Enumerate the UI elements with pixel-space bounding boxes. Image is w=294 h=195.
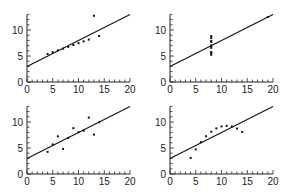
scatter-panel-4: 051015200510 — [155, 106, 279, 187]
data-point — [62, 48, 64, 50]
x-tick-label: 0 — [24, 176, 30, 187]
data-point — [47, 151, 49, 153]
data-point — [210, 37, 212, 39]
x-tick-label: 10 — [216, 176, 228, 187]
scatter-panel-3: 051015200510 — [12, 106, 136, 187]
data-point — [72, 127, 74, 129]
regression-line — [170, 14, 273, 66]
data-point — [267, 16, 269, 18]
data-point — [200, 141, 202, 143]
y-tick-label: 0 — [17, 77, 23, 88]
x-tick-label: 0 — [24, 84, 30, 95]
data-point — [195, 148, 197, 150]
y-tick-label: 10 — [12, 25, 24, 36]
y-tick-label: 0 — [17, 169, 23, 180]
x-tick-label: 15 — [242, 84, 254, 95]
y-tick-label: 5 — [17, 51, 23, 62]
data-point — [241, 131, 243, 133]
scatter-panel-1: 051015200510 — [12, 14, 136, 95]
y-tick-label: 0 — [160, 169, 166, 180]
y-tick-label: 10 — [155, 117, 167, 128]
x-tick-label: 10 — [73, 176, 85, 187]
data-point — [98, 121, 100, 123]
x-tick-label: 15 — [99, 84, 111, 95]
y-tick-label: 5 — [160, 143, 166, 154]
x-tick-label: 15 — [242, 176, 254, 187]
data-point — [83, 130, 85, 132]
data-point — [210, 35, 212, 37]
regression-line — [27, 14, 130, 66]
data-point — [57, 49, 59, 51]
x-tick-label: 10 — [216, 84, 228, 95]
data-point — [78, 42, 80, 44]
x-tick-label: 5 — [193, 84, 199, 95]
data-point — [52, 51, 54, 53]
data-point — [88, 117, 90, 119]
data-point — [67, 137, 69, 139]
data-point — [236, 128, 238, 130]
data-point — [210, 52, 212, 54]
x-tick-label: 15 — [99, 176, 111, 187]
x-tick-label: 5 — [50, 84, 56, 95]
data-point — [215, 127, 217, 129]
data-point — [57, 135, 59, 137]
data-point — [62, 148, 64, 150]
x-tick-label: 20 — [124, 84, 136, 95]
data-point — [190, 157, 192, 159]
data-point — [52, 143, 54, 145]
x-tick-label: 5 — [193, 176, 199, 187]
y-tick-label: 5 — [17, 143, 23, 154]
x-tick-label: 20 — [267, 84, 279, 95]
data-point — [226, 125, 228, 127]
data-point — [47, 53, 49, 55]
data-point — [210, 40, 212, 42]
y-tick-label: 10 — [12, 117, 24, 128]
regression-line — [170, 106, 273, 158]
x-tick-label: 0 — [167, 176, 173, 187]
data-point — [98, 35, 100, 37]
data-point — [88, 39, 90, 41]
anscombe-quartet-chart: 0510152005100510152005100510152005100510… — [0, 0, 294, 195]
x-tick-label: 0 — [167, 84, 173, 95]
scatter-panel-2: 051015200510 — [155, 14, 279, 95]
x-tick-label: 5 — [50, 176, 56, 187]
data-point — [93, 134, 95, 136]
y-tick-label: 5 — [160, 51, 166, 62]
y-tick-label: 10 — [155, 25, 167, 36]
data-point — [93, 15, 95, 17]
x-tick-label: 20 — [267, 176, 279, 187]
data-point — [210, 45, 212, 47]
data-point — [83, 40, 85, 42]
y-tick-label: 0 — [160, 77, 166, 88]
x-tick-label: 20 — [124, 176, 136, 187]
data-point — [210, 131, 212, 133]
data-point — [78, 131, 80, 133]
x-tick-label: 10 — [73, 84, 85, 95]
data-point — [67, 46, 69, 48]
data-point — [205, 135, 207, 137]
data-point — [72, 44, 74, 46]
data-point — [221, 125, 223, 127]
data-point — [231, 126, 233, 128]
